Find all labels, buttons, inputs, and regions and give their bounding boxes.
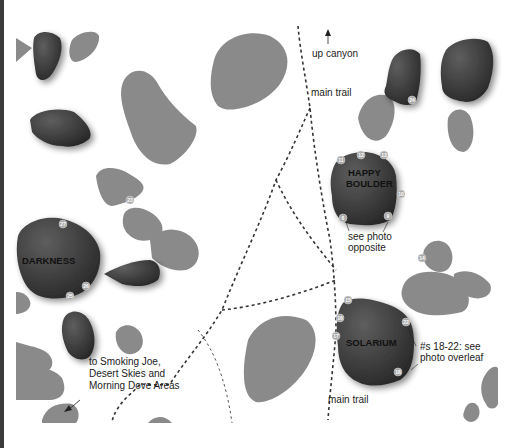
up-canyon-label: up canyon: [312, 48, 358, 59]
up-canyon-arrow: [325, 29, 331, 44]
problem-number: 27: [60, 221, 66, 227]
see-photo-label: opposite: [348, 242, 386, 253]
main-trail-top-label: main trail: [311, 87, 352, 98]
problem-number: 16: [337, 315, 343, 321]
overleaf-label: #s 18-22: see: [420, 341, 481, 352]
main-trail-bottom-label: main trail: [328, 394, 369, 405]
problem-number: 22: [403, 319, 409, 325]
happy-boulder-label: BOULDER: [346, 178, 393, 189]
problem-number: 24: [409, 97, 415, 103]
directions-label: Morning Dove Areas: [89, 380, 180, 391]
overleaf-label: photo overleaf: [420, 352, 484, 363]
problem-number: 23: [127, 197, 133, 203]
problem-number: 18: [395, 369, 401, 375]
problem-number: 9: [387, 213, 390, 219]
bouldering-area-map: 11 12 13 10 9 8 15 16 17 22 18 27 26 25 …: [0, 0, 525, 448]
problem-number: 10: [398, 191, 404, 197]
directions-label: to Smoking Joe,: [89, 356, 161, 367]
problem-number: 25: [67, 293, 73, 299]
problem-number: 14: [419, 255, 425, 261]
solarium-label: SOLARIUM: [346, 337, 397, 348]
problem-number: 12: [358, 152, 364, 158]
problem-number: 8: [342, 215, 345, 221]
problem-number: 15: [345, 297, 351, 303]
problem-number: 17: [333, 333, 339, 339]
darkness-label: DARKNESS: [22, 255, 75, 266]
problem-number: 11: [338, 157, 344, 163]
see-photo-label: see photo: [348, 231, 392, 242]
problem-number: 26: [83, 283, 89, 289]
happy-boulder-label: HAPPY: [348, 167, 381, 178]
problem-number: 13: [381, 152, 387, 158]
directions-label: Desert Skies and: [89, 368, 165, 379]
